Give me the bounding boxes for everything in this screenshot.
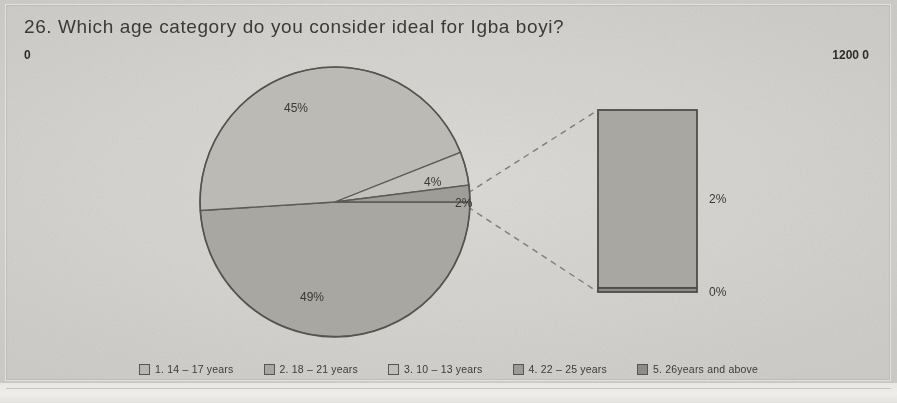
- pie-group: [200, 67, 470, 337]
- legend-swatch-icon: [264, 364, 275, 375]
- bar-of-pie-chart: [0, 0, 897, 403]
- pie-label-2: 2%: [455, 196, 472, 210]
- bar-segment-2pct: [598, 110, 697, 288]
- pie-slice-49: [200, 202, 470, 337]
- bar-segment-0pct: [598, 288, 697, 292]
- legend-item-5[interactable]: 5. 26years and above: [637, 363, 758, 375]
- legend-item-4[interactable]: 4. 22 – 25 years: [513, 363, 608, 375]
- chart-legend: 1. 14 – 17 years 2. 18 – 21 years 3. 10 …: [0, 363, 897, 375]
- legend-label: 4. 22 – 25 years: [529, 363, 608, 375]
- connector-line-bottom: [468, 207, 598, 292]
- legend-swatch-icon: [513, 364, 524, 375]
- legend-swatch-icon: [139, 364, 150, 375]
- bar-of-pie-group: [598, 110, 697, 292]
- connector-lines: [468, 110, 598, 292]
- legend-swatch-icon: [637, 364, 648, 375]
- pie-label-4: 4%: [424, 175, 441, 189]
- legend-item-2[interactable]: 2. 18 – 21 years: [264, 363, 359, 375]
- pie-label-49: 49%: [300, 290, 324, 304]
- bar-label-0: 0%: [709, 285, 726, 299]
- page-bottom-rule: [6, 388, 891, 389]
- legend-swatch-icon: [388, 364, 399, 375]
- connector-line-top: [468, 110, 598, 193]
- legend-item-3[interactable]: 3. 10 – 13 years: [388, 363, 483, 375]
- chart-slide: 26. Which age category do you consider i…: [0, 0, 897, 403]
- bar-label-2: 2%: [709, 192, 726, 206]
- legend-label: 1. 14 – 17 years: [155, 363, 234, 375]
- legend-label: 5. 26years and above: [653, 363, 758, 375]
- pie-label-45: 45%: [284, 101, 308, 115]
- legend-label: 2. 18 – 21 years: [280, 363, 359, 375]
- page-bottom-margin: [0, 383, 897, 403]
- legend-label: 3. 10 – 13 years: [404, 363, 483, 375]
- legend-item-1[interactable]: 1. 14 – 17 years: [139, 363, 234, 375]
